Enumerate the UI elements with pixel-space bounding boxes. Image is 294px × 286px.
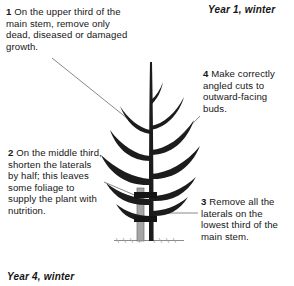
lateral-branches-right <box>151 97 200 216</box>
callout-3: 3 Remove all the laterals on the lowest … <box>201 196 293 242</box>
callout-number: 3 <box>201 196 206 207</box>
callout-number: 4 <box>203 68 208 79</box>
top-shoot <box>151 82 163 104</box>
year-label-bottom: Year 4, winter <box>7 271 74 282</box>
lateral-branches-left <box>101 106 150 221</box>
callout-2: 2 On the middle third, shorten the later… <box>8 147 104 217</box>
stake-tie-upper <box>134 192 157 198</box>
callout-number: 2 <box>8 147 13 158</box>
callout-number: 1 <box>6 6 11 17</box>
year-label-top: Year 1, winter <box>208 4 275 15</box>
callout-1: 1 On the upper third of the main stem, r… <box>6 6 128 52</box>
callout-4: 4 Make correctly angled cuts to outward-… <box>203 68 293 114</box>
pruning-diagram-figure: Year 1, winter Year 4, winter 1 On the u… <box>0 0 294 286</box>
stake-tie-lower <box>134 216 157 222</box>
